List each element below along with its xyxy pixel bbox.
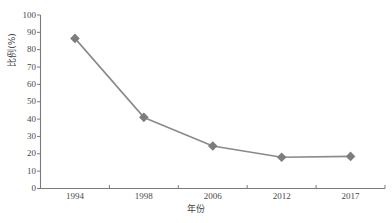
data-line (75, 38, 351, 157)
data-point-markers (70, 34, 355, 162)
x-axis-title: 年份 (0, 203, 392, 216)
data-point-marker[interactable] (346, 152, 356, 162)
x-tick-label: 1994 (53, 190, 97, 202)
x-tick-label: 2006 (191, 190, 235, 202)
data-point-marker[interactable] (277, 152, 287, 162)
x-axis-tick-labels: 1994 1998 2006 2012 2017 (0, 190, 392, 204)
x-tick-label: 1998 (122, 190, 166, 202)
x-tick-label: 2012 (260, 190, 304, 202)
line-chart: 比例(%) 100 90 80 70 60 50 40 30 20 10 0 (0, 0, 392, 223)
x-tick-label: 2017 (329, 190, 373, 202)
data-point-marker[interactable] (208, 141, 218, 151)
